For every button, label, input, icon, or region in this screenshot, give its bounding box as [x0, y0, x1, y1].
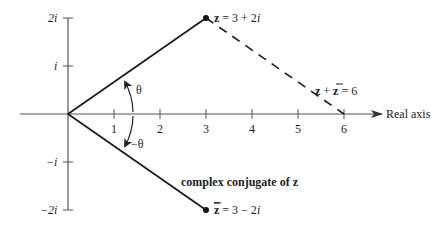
complex-plane-diagram: Real axis 2i i −i −2i 1 2 3 4 5 6 z = 3 … — [0, 0, 444, 228]
point-z-conjugate — [203, 207, 209, 213]
y-tick-label-2i: 2i — [48, 11, 57, 25]
sum-label: z + z = 6 — [315, 84, 357, 98]
conjugate-caption: complex conjugate of z — [181, 175, 299, 189]
x-tick-label-3: 3 — [203, 122, 209, 136]
y-tick-label-neg-2i: −2i — [40, 203, 57, 217]
point-z-label: z = 3 + 2i — [214, 11, 260, 25]
point-z — [203, 15, 209, 21]
x-tick-label-6: 6 — [341, 122, 347, 136]
angle-arc-theta — [125, 82, 133, 112]
angle-neg-theta-label: −θ — [131, 137, 144, 151]
real-axis-label: Real axis — [386, 107, 431, 121]
angle-theta-label: θ — [136, 83, 142, 97]
point-z-conjugate-label: z = 3 − 2i — [214, 203, 260, 217]
vector-z-conjugate — [68, 114, 206, 210]
x-tick-label-4: 4 — [249, 122, 255, 136]
x-tick-label-5: 5 — [295, 122, 301, 136]
y-tick-label-i: i — [54, 59, 57, 73]
x-tick-label-2: 2 — [157, 122, 163, 136]
y-tick-label-neg-i: −i — [46, 155, 57, 169]
x-tick-label-1: 1 — [111, 122, 117, 136]
dashed-sum-line — [206, 18, 344, 114]
vector-z — [68, 18, 206, 114]
